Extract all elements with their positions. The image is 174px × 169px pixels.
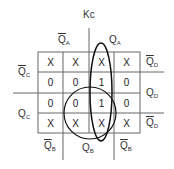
cell: 0 — [114, 72, 139, 92]
cell: 1 — [89, 93, 114, 113]
cell: X — [114, 113, 139, 133]
cell: 0 — [38, 72, 63, 92]
cell: X — [63, 113, 88, 133]
col-label-not-qa: QA — [58, 34, 70, 46]
row-label-not-qd-top: QD — [146, 56, 158, 68]
cell: X — [114, 52, 139, 72]
cell: 1 — [89, 72, 114, 92]
cell: 0 — [63, 93, 88, 113]
cell: X — [89, 52, 114, 72]
row-label-qc: QC — [18, 108, 30, 120]
row-label-not-qc: QC — [18, 66, 30, 78]
row-label-not-qd-bottom: QD — [146, 117, 158, 129]
cell: X — [38, 113, 63, 133]
row-label-qd: QD — [146, 87, 158, 99]
col-label-not-qb-right: QB — [120, 140, 132, 152]
col-label-not-qb-left: QB — [44, 140, 56, 152]
map-title: Kc — [83, 9, 95, 20]
cell: X — [38, 52, 63, 72]
cell: 0 — [38, 93, 63, 113]
cell: 0 — [63, 72, 88, 92]
cell: 0 — [114, 93, 139, 113]
col-label-qb: QB — [82, 142, 94, 154]
col-label-qa: QA — [109, 34, 121, 46]
cell: X — [63, 52, 88, 72]
karnaugh-map: Kc QA QA QB QB QB QC QC QD QD QD X X X X… — [0, 0, 174, 169]
cell: X — [89, 113, 114, 133]
